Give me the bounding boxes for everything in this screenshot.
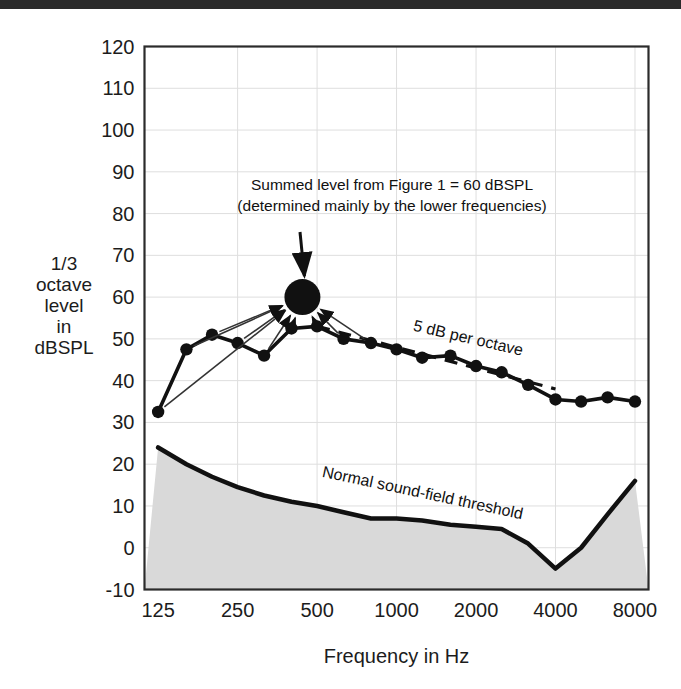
y-tick-label: 10: [112, 495, 134, 517]
data-point-marker: [444, 349, 456, 361]
data-point-marker: [470, 360, 482, 372]
data-point-marker: [180, 343, 192, 355]
x-tick-label: 125: [141, 599, 174, 621]
x-tick-labels-group: 1252505001000200040008000: [141, 599, 657, 621]
summed-level-marker-group: [284, 279, 320, 315]
y-tick-label: 30: [112, 411, 134, 433]
y-tick-label: 0: [123, 537, 134, 559]
data-point-marker: [337, 333, 349, 345]
y-tick-label: 60: [112, 286, 134, 308]
summed-level-marker: [284, 279, 320, 315]
y-tick-label: 20: [112, 453, 134, 475]
y-tick-label: 90: [112, 161, 134, 183]
data-point-marker: [390, 343, 402, 355]
y-tick-label: 120: [101, 36, 134, 58]
data-point-marker: [495, 366, 507, 378]
data-point-marker: [365, 337, 377, 349]
data-point-marker: [629, 395, 641, 407]
annotation-arrow: [300, 232, 304, 276]
y-tick-label: 80: [112, 203, 134, 225]
x-tick-label: 8000: [613, 599, 658, 621]
data-point-marker: [258, 349, 270, 361]
y-tick-label: 100: [101, 119, 134, 141]
y-tick-labels-group: 1201101009080706050403020100-10: [101, 36, 134, 601]
leader-arrow: [312, 317, 313, 319]
data-point-marker: [416, 351, 428, 363]
data-point-marker: [575, 395, 587, 407]
data-point-marker: [601, 391, 613, 403]
x-tick-label: 250: [221, 599, 254, 621]
chart-plot: 1201101009080706050403020100-10 12525050…: [0, 0, 681, 689]
y-tick-label: 70: [112, 244, 134, 266]
y-tick-label: -10: [106, 579, 135, 601]
data-point-marker: [285, 322, 297, 334]
summed-level-annotation-line: (determined mainly by the lower frequenc…: [237, 197, 546, 214]
x-tick-label: 4000: [533, 599, 578, 621]
data-point-marker: [152, 406, 164, 418]
data-point-marker: [522, 379, 534, 391]
data-point-marker: [549, 393, 561, 405]
slope-annotation: 5 dB per octave: [412, 317, 525, 359]
y-tick-label: 110: [103, 77, 135, 99]
y-tick-label: 50: [112, 328, 134, 350]
figure-container: 1/3 octave level in dBSPL Frequency in H…: [0, 0, 681, 689]
leader-arrow: [294, 318, 295, 321]
x-tick-label: 500: [300, 599, 333, 621]
summed-level-annotation-line: Summed level from Figure 1 = 60 dBSPL: [251, 176, 534, 193]
y-tick-label: 40: [112, 370, 134, 392]
data-point-marker: [231, 337, 243, 349]
x-tick-label: 1000: [374, 599, 419, 621]
data-point-marker: [311, 320, 323, 332]
x-tick-label: 2000: [454, 599, 499, 621]
